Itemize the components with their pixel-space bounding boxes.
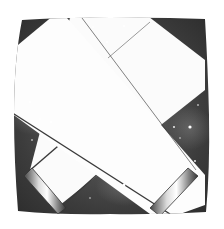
- crossed-telescopes-illustration: [0, 0, 224, 229]
- night-sky-frame: [0, 0, 224, 229]
